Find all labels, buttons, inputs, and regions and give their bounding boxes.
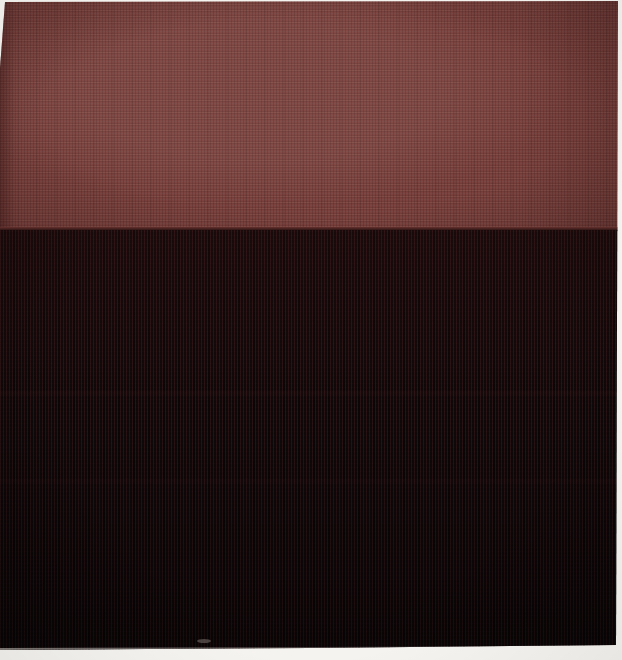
fabric-black-panel bbox=[0, 230, 622, 660]
fabric-photo bbox=[0, 0, 622, 660]
fabric-red-panel bbox=[0, 0, 622, 230]
photo-canvas bbox=[0, 0, 622, 660]
dust-speck bbox=[197, 639, 211, 643]
